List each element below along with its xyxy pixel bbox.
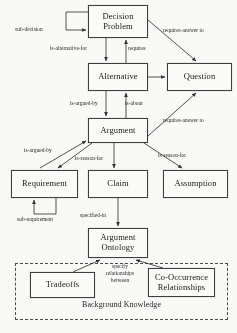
node-label-question: Question (182, 72, 218, 82)
edge-label-requires: requires (128, 45, 146, 52)
edge-label-requires-answer-to-argument: requires-answer to (163, 117, 204, 124)
edge-label-is-reason-for-claim: is-reason-for (75, 155, 103, 162)
edge-requires-answer-to-argument (148, 93, 196, 136)
node-claim: Claim (88, 170, 148, 198)
node-assumption: Assumption (163, 170, 228, 198)
node-label-requirement: Requirement (20, 179, 69, 189)
edge-label-is-alternative-for: is-alternative-for (50, 45, 87, 52)
edge-label-is-reason-for-assumption: is-reason-for (158, 152, 186, 159)
node-label-alternative: Alternative (96, 72, 139, 82)
node-tradeoffs: Tradeoffs (30, 272, 95, 298)
edge-label-specified-in: specified-in (80, 212, 106, 219)
node-label-assumption: Assumption (172, 179, 218, 189)
node-label-argument-ontology: ArgumentOntology (98, 233, 137, 252)
node-alternative: Alternative (88, 63, 148, 91)
edge-label-is-argued-by-requirement: is-argued-by (24, 147, 52, 154)
node-decision-problem: DecisionProblem (88, 5, 148, 38)
node-requirement: Requirement (11, 170, 78, 198)
node-argument-ontology: ArgumentOntology (88, 228, 148, 258)
edge-label-is-about: is-about (125, 100, 143, 107)
node-question: Question (167, 63, 232, 91)
node-label-co-occurrence-relationships: Co-OccurrenceRelationships (153, 273, 210, 292)
edge-label-requires-answer-to-top: requires-answer to (163, 27, 204, 34)
argument-ontology-diagram: Background Knowledge (0, 0, 237, 333)
edge-label-sub-decision: sub-decision (15, 26, 43, 33)
edge-sub-decision (66, 12, 88, 30)
node-label-decision-problem: DecisionProblem (100, 12, 135, 31)
edge-sub-requirement (34, 198, 56, 214)
edge-label-sub-requirement: sub-requirement (17, 216, 53, 223)
node-label-argument: Argument (98, 126, 137, 136)
node-argument: Argument (88, 118, 148, 143)
node-label-tradeoffs: Tradeoffs (44, 280, 82, 290)
node-co-occurrence-relationships: Co-OccurrenceRelationships (148, 268, 215, 297)
node-label-claim: Claim (105, 179, 130, 189)
edge-label-specify-relationships-between: specifyrelationshipsbetween (99, 263, 141, 283)
edge-tradeoffs-ontology (73, 260, 100, 272)
edge-label-is-argued-by-alternative: is-argued-by (70, 100, 98, 107)
